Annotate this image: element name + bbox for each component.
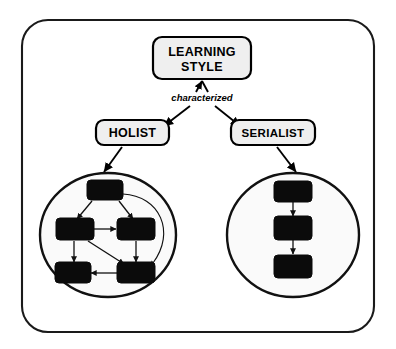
learning-style-label-line2: STYLE (181, 60, 223, 74)
node-learning-style[interactable]: LEARNING STYLE (153, 37, 251, 79)
serialist-cluster (227, 173, 359, 297)
relation-label: characterized (171, 92, 232, 103)
holist-cluster (40, 173, 176, 297)
holist-node-mid-right[interactable] (117, 218, 155, 240)
holist-node-top[interactable] (87, 180, 123, 200)
holist-node-mid-left[interactable] (56, 218, 94, 240)
diagram-root: LEARNING STYLE characterized HOLIST SERI… (0, 0, 396, 349)
learning-style-label-line1: LEARNING (168, 45, 236, 59)
serialist-label: SERIALIST (242, 127, 305, 139)
node-holist[interactable]: HOLIST (96, 120, 169, 145)
holist-label: HOLIST (109, 126, 157, 140)
serialist-node-1[interactable] (274, 181, 312, 202)
serialist-node-2[interactable] (274, 216, 312, 240)
node-serialist[interactable]: SERIALIST (231, 120, 315, 145)
holist-node-bottom-left[interactable] (55, 262, 91, 283)
holist-node-bottom-right[interactable] (117, 262, 155, 283)
serialist-node-3[interactable] (274, 255, 312, 278)
